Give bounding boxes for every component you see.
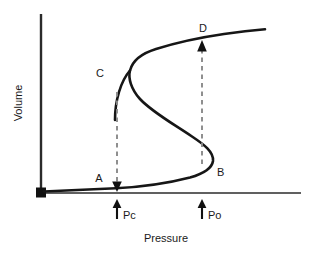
pc-marker-arrowhead-up-icon [113,199,122,208]
pressure-marker-label-pc: Pc [123,209,136,221]
point-label-b: B [217,166,224,178]
po-transition-arrowhead-up-icon [197,40,207,52]
x-axis-label: Pressure [144,232,188,244]
po-marker-arrowhead-up-icon [198,199,207,208]
isotherm-curve [44,29,265,191]
pressure-marker-label-po: Po [208,209,221,221]
volume-pressure-plot: A B C D Pc Po Pressure Volume [0,0,333,253]
point-label-c: C [96,67,104,79]
figure-container: A B C D Pc Po Pressure Volume [0,0,333,253]
point-label-a: A [95,172,103,184]
point-label-d: D [199,22,207,34]
y-axis-label: Volume [12,85,24,122]
